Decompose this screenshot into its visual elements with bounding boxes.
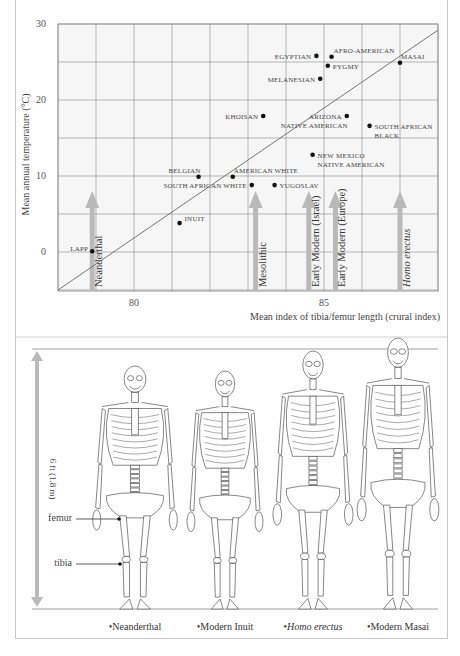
point-label: NATIVE AMERICAN xyxy=(281,122,348,130)
arrow-up-icon xyxy=(31,351,43,361)
y-tick-label: 20 xyxy=(36,94,46,105)
tibia-label: tibia xyxy=(54,557,72,568)
point-label: NATIVE AMERICAN xyxy=(318,161,385,169)
figure-label: •Modern Inuit xyxy=(197,621,254,632)
skeleton-icon xyxy=(93,366,178,609)
femur-label: femur xyxy=(48,512,73,523)
height-scale-label: 6 ft (1.8 m) xyxy=(48,459,58,500)
arrow-down-icon xyxy=(31,597,43,607)
skeleton-icon xyxy=(187,371,263,609)
point-label: LAPP xyxy=(70,245,88,253)
point-label: BELGIAN xyxy=(168,167,200,175)
plot-area: NeanderthalMesolithicEarly Modern (Israe… xyxy=(58,24,438,291)
skeleton-figure: •Homo erectus xyxy=(273,351,353,632)
point-label: SOUTH AFRICAN xyxy=(375,123,433,131)
point-label: PYGMY xyxy=(333,63,359,71)
x-tick-label: 80 xyxy=(129,297,139,308)
data-point: SOUTH AFRICAN WHITE xyxy=(163,182,254,190)
point-label: AFRO-AMERICAN xyxy=(334,47,395,55)
data-point: YUGOSLAV xyxy=(272,182,319,190)
y-tick-label: 30 xyxy=(36,18,46,29)
skeleton-icon xyxy=(273,351,353,609)
data-point: MELANESIAN xyxy=(268,76,323,84)
x-axis-label: Mean index of tibia/femur length (crural… xyxy=(250,311,440,323)
point-label: AMERICAN WHITE xyxy=(234,167,298,175)
figure-label: •Modern Masai xyxy=(367,621,429,632)
crural-index-chart: NeanderthalMesolithicEarly Modern (Israe… xyxy=(0,0,460,656)
figure-label: •Homo erectus xyxy=(284,621,343,632)
point-label: INUIT xyxy=(185,215,206,223)
x-tick-label: 85 xyxy=(319,297,329,308)
point-label: NEW MEXICO xyxy=(318,152,365,160)
y-tick-label: 10 xyxy=(36,170,46,181)
point-label: YUGOSLAV xyxy=(280,182,319,190)
point-label: SOUTH AFRICAN WHITE xyxy=(163,182,246,190)
fossil-label: Early Modern (Israel) xyxy=(310,195,322,287)
y-axis-label: Mean annual temperature (°C) xyxy=(20,93,32,215)
skeleton-figure: •Modern Inuit xyxy=(187,371,263,632)
point-label: MASAI xyxy=(401,53,425,61)
skeleton-figure: •Modern Masai xyxy=(357,338,439,632)
point-label: MELANESIAN xyxy=(268,76,316,84)
fossil-label: Mesolithic xyxy=(257,242,268,287)
point-label: BLACK xyxy=(375,132,400,140)
y-tick-label: 0 xyxy=(41,246,46,257)
skeleton-figure: •Neanderthal xyxy=(93,366,178,632)
point-label: ARIZONA xyxy=(309,113,342,121)
point-label: KHOISAN xyxy=(225,113,258,121)
figure-label: •Neanderthal xyxy=(109,621,162,632)
point-label: EGYPTIAN xyxy=(275,53,312,61)
fossil-label: Early Modern (Europe) xyxy=(336,188,348,287)
fossil-label: Neanderthal xyxy=(93,236,104,287)
fossil-label: Homo erectus xyxy=(401,229,412,288)
skeleton-comparison: 6 ft (1.8 m)•Neanderthal•Modern Inuit•Ho… xyxy=(31,338,439,632)
skeleton-icon xyxy=(357,338,439,609)
